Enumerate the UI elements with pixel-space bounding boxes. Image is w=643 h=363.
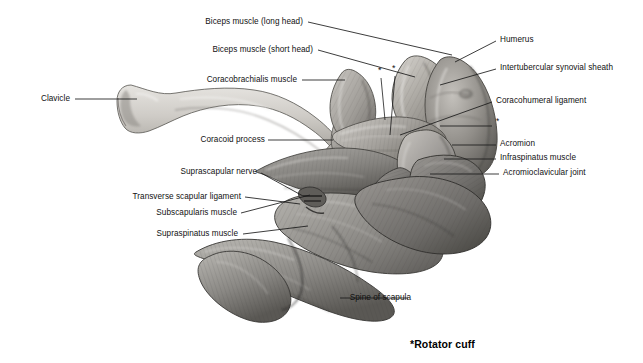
anatomy-figure [0,0,643,363]
anatomy-illustration [0,0,643,363]
asterisk-asterisk-subscapularis: * [392,63,396,73]
label-humerus: Humerus [500,35,534,44]
label-acromion: Acromion [500,139,535,148]
label-coracohumeral-ligament: Coracohumeral ligament [496,96,586,105]
label-infraspinatus: Infraspinatus muscle [500,153,576,162]
label-coracobrachialis: Coracobrachialis muscle [0,75,297,84]
label-intertubercular-synovial-sheath: Intertubercular synovial sheath [500,63,613,72]
label-transverse-scapular-ligament: Transverse scapular ligament [0,192,241,201]
label-clavicle: Clavicle [0,94,70,103]
label-biceps-short-head: Biceps muscle (short head) [0,45,313,54]
asterisk-asterisk-supraspinatus: * [378,65,382,75]
label-acromioclavicular-joint: Acromioclavicular joint [503,168,586,177]
label-spine-of-scapula: Spine of scapula [0,293,411,302]
label-suprascapular-nerve: Suprascapular nerve [0,167,257,176]
label-coracoid-process: Coracoid process [0,135,265,144]
rotator-cuff-caption: *Rotator cuff [410,338,475,350]
label-supraspinatus: Supraspinatus muscle [0,229,238,238]
label-biceps-long-head: Biceps muscle (long head) [0,17,303,26]
label-rotator-cuff-asterisk-right: * [496,117,499,126]
label-subscapularis: Subscapularis muscle [0,208,237,217]
